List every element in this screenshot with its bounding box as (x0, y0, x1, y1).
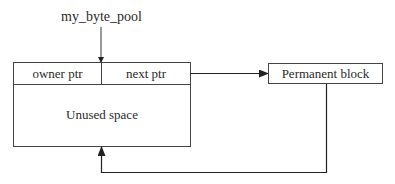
permanent-block-label: Permanent block (269, 67, 382, 80)
owner-ptr-label: owner ptr (14, 67, 101, 80)
pool-label: my_byte_pool (61, 10, 141, 24)
next-ptr-label: next ptr (102, 67, 190, 80)
unused-space-label: Unused space (14, 108, 190, 121)
diagram-canvas (0, 0, 395, 184)
return-arrow (102, 84, 327, 173)
